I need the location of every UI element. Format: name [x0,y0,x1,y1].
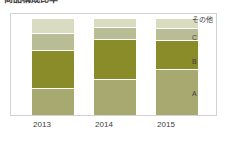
x-tick-label: 2014 [79,120,129,130]
bar-segment[interactable] [94,40,136,80]
stacked-bar-2014[interactable] [94,19,136,115]
bar-segment[interactable] [94,19,136,28]
bar-segment[interactable] [32,89,74,115]
x-tick-label: 2013 [17,120,67,130]
x-tick-label: 2015 [141,120,191,130]
legend-label: C [192,34,197,42]
plot-area [11,14,188,115]
page-heading: 商品構成比率 [4,0,58,4]
x-axis-tick-labels: 2013 2014 2015 [10,120,217,134]
bar-segment[interactable] [32,34,74,51]
legend-label: その他 [192,16,213,24]
bar-segment[interactable] [32,19,74,34]
heading-strip: 商品構成比率 [4,0,124,7]
legend-label: B [192,58,197,66]
chart-figure: 商品構成比率 その他CBA 2013 2014 2015 [0,0,227,141]
bar-segment[interactable] [94,80,136,115]
bar-segment[interactable] [94,28,136,39]
stacked-bar-2013[interactable] [32,19,74,115]
legend-label: A [192,90,197,98]
chart-legend: その他CBA [190,14,227,115]
bar-segment[interactable] [32,51,74,89]
